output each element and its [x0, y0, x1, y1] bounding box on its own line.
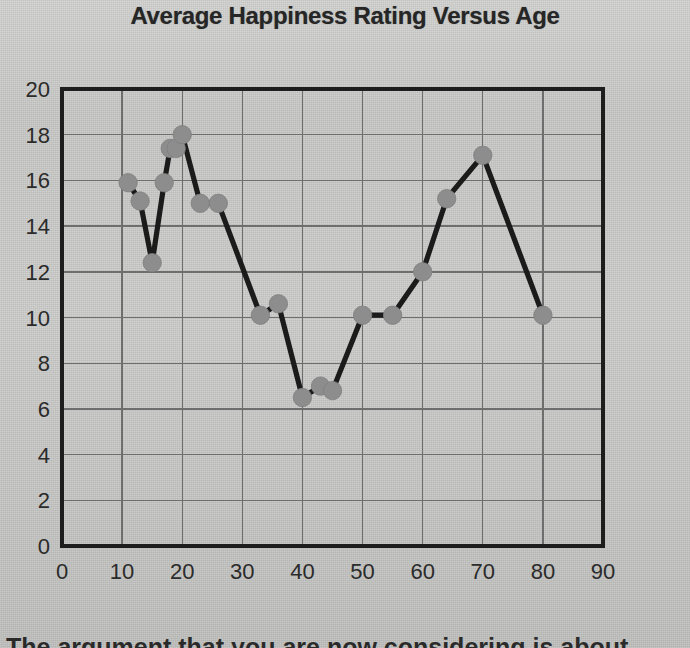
svg-text:0: 0 [56, 559, 68, 584]
plot-area: 0102030405060708090 02468101214161820 [0, 0, 690, 600]
svg-text:18: 18 [26, 123, 50, 148]
svg-text:2: 2 [38, 488, 50, 513]
data-series-line [128, 135, 543, 398]
gridlines [62, 89, 603, 546]
chart-sheet: Average Happiness Rating Versus Age 0102… [0, 0, 690, 648]
line-chart-svg: 0102030405060708090 02468101214161820 [0, 0, 690, 600]
svg-text:90: 90 [591, 559, 615, 584]
svg-text:10: 10 [110, 559, 134, 584]
svg-text:0: 0 [38, 534, 50, 559]
svg-text:8: 8 [38, 351, 50, 376]
cut-off-caption: The argument that you are now considerin… [0, 636, 690, 648]
svg-text:20: 20 [170, 559, 194, 584]
svg-text:70: 70 [471, 559, 495, 584]
svg-text:12: 12 [26, 260, 50, 285]
x-axis-tick-labels: 0102030405060708090 [56, 559, 615, 584]
cut-off-caption-text: The argument that you are now considerin… [0, 636, 690, 648]
svg-text:10: 10 [26, 306, 50, 331]
svg-text:16: 16 [26, 168, 50, 193]
svg-text:80: 80 [531, 559, 555, 584]
svg-text:50: 50 [350, 559, 374, 584]
svg-text:6: 6 [38, 397, 50, 422]
svg-text:60: 60 [410, 559, 434, 584]
svg-text:14: 14 [26, 214, 50, 239]
y-axis-tick-labels: 02468101214161820 [26, 77, 50, 559]
svg-text:4: 4 [38, 443, 50, 468]
svg-text:40: 40 [290, 559, 314, 584]
svg-text:20: 20 [26, 77, 50, 102]
svg-text:30: 30 [230, 559, 254, 584]
